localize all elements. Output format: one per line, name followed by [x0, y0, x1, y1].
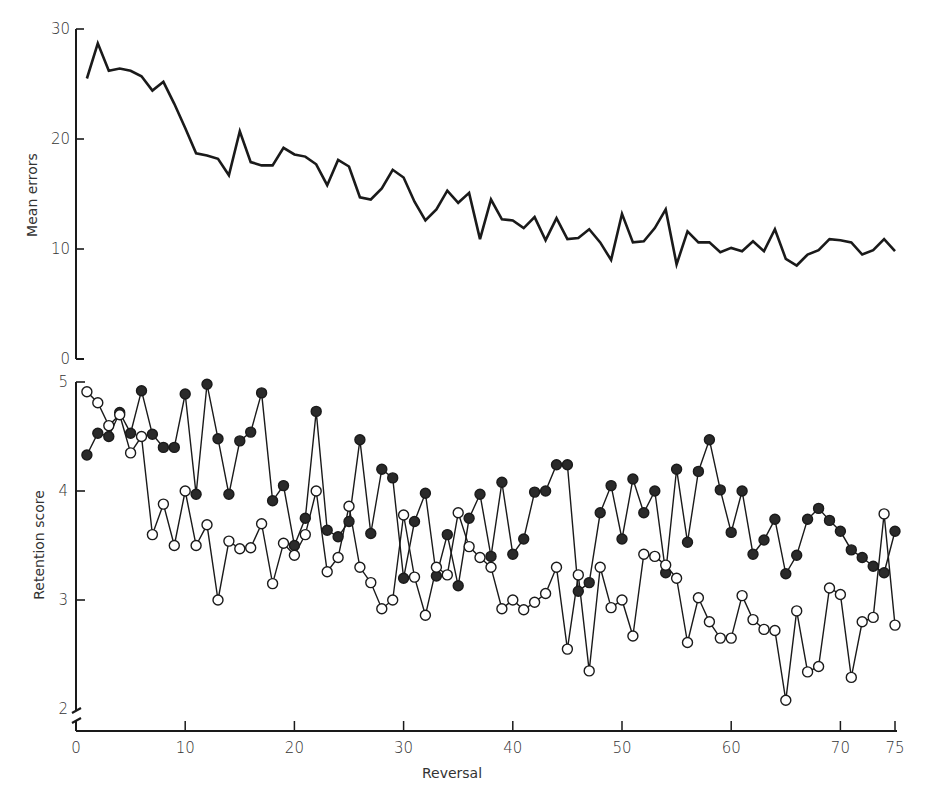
open-circle-marker — [115, 410, 125, 420]
bottom-y-axis-title: Retention score — [31, 490, 47, 600]
filled-circle-marker — [169, 442, 179, 452]
filled-circle-marker — [825, 515, 835, 525]
filled-circle-marker — [137, 386, 147, 396]
filled-circle-marker — [213, 434, 223, 444]
filled-circle-marker — [770, 514, 780, 524]
filled-circle-marker — [475, 489, 485, 499]
open-circle-marker — [213, 595, 223, 605]
open-circle-marker — [104, 421, 114, 431]
filled-circle-marker — [497, 477, 507, 487]
open-circle-marker — [147, 530, 157, 540]
open-circle-marker — [475, 553, 485, 563]
filled-circle-marker — [639, 508, 649, 518]
open-circle-marker — [552, 562, 562, 572]
open-circle-marker — [650, 551, 660, 561]
filled-circle-marker — [388, 473, 398, 483]
filled-circle-marker — [748, 549, 758, 559]
open-circle-marker — [399, 510, 409, 520]
open-circle-marker — [388, 595, 398, 605]
x-tick-label: 70 — [831, 739, 850, 757]
open-circle-marker — [748, 615, 758, 625]
top-y-tick-label: 30 — [51, 20, 70, 38]
open-circle-marker — [868, 612, 878, 622]
open-circle-marker — [82, 387, 92, 397]
x-tick-label: 30 — [394, 739, 413, 757]
open-circle-marker — [759, 624, 769, 634]
filled-circle-marker — [224, 489, 234, 499]
open-circle-marker — [595, 562, 605, 572]
open-circle-marker — [453, 508, 463, 518]
mean-errors-line — [87, 43, 895, 265]
open-circle-marker — [693, 593, 703, 603]
filled-circle-marker — [606, 481, 616, 491]
x-tick-label: 20 — [285, 739, 304, 757]
filled-circle-marker — [355, 435, 365, 445]
open-circle-marker — [235, 544, 245, 554]
open-circle-marker — [606, 603, 616, 613]
filled-circle-marker — [814, 503, 824, 513]
filled-circle-marker — [846, 545, 856, 555]
filled-circle-marker — [508, 549, 518, 559]
filled-circle-marker — [147, 429, 157, 439]
open-circle-marker — [814, 662, 824, 672]
open-circle-marker — [857, 617, 867, 627]
filled-circle-marker — [202, 379, 212, 389]
filled-circle-marker — [420, 488, 430, 498]
filled-circle-marker — [180, 389, 190, 399]
x-tick-label: 50 — [612, 739, 631, 757]
top-y-axis-title: Mean errors — [24, 153, 40, 237]
figure: 0102030 2345 01020304050607075 Mean erro… — [0, 0, 930, 796]
filled-circle-marker — [704, 435, 714, 445]
top-y-tick-label: 10 — [51, 240, 70, 258]
open-circle-marker — [584, 666, 594, 676]
x-tick-label: 75 — [885, 739, 904, 757]
open-circle-marker — [486, 562, 496, 572]
open-circle-marker — [672, 573, 682, 583]
filled-circle-marker — [617, 534, 627, 544]
open-circle-marker — [93, 398, 103, 408]
filled-circle-marker — [672, 464, 682, 474]
bottom-y-tick-label: 4 — [58, 482, 68, 500]
open-circle-marker — [300, 530, 310, 540]
open-circle-marker — [279, 538, 289, 548]
filled-circle-marker — [584, 578, 594, 588]
bottom-y-tick-label: 5 — [58, 373, 68, 391]
x-axis: 01020304050607075 — [71, 721, 904, 757]
x-axis-title: Reversal — [422, 765, 482, 781]
open-circle-marker — [257, 519, 267, 529]
open-circle-marker — [562, 644, 572, 654]
filled-circle-marker — [399, 573, 409, 583]
open-circle-marker — [497, 604, 507, 614]
open-circle-marker — [792, 606, 802, 616]
open-circle-marker — [573, 570, 583, 580]
filled-circle-marker — [333, 532, 343, 542]
open-circle-marker — [835, 590, 845, 600]
open-circle-marker — [628, 631, 638, 641]
bottom-y-tick-label: 3 — [58, 591, 68, 609]
filled-circle-marker — [464, 513, 474, 523]
filled-circle-marker — [191, 489, 201, 499]
open-circle-marker — [169, 541, 179, 551]
filled-circle-marker — [104, 432, 114, 442]
open-circle-marker — [726, 633, 736, 643]
open-circle-marker — [126, 448, 136, 458]
filled-circle-marker — [410, 517, 420, 527]
x-tick-label: 60 — [722, 739, 741, 757]
open-circle-marker — [246, 543, 256, 553]
filled-circle-marker — [868, 561, 878, 571]
open-circle-marker — [377, 604, 387, 614]
open-circle-marker — [268, 579, 278, 589]
filled-circle-marker — [693, 466, 703, 476]
filled-circle-marker — [519, 534, 529, 544]
filled-circle-marker — [300, 513, 310, 523]
filled-circle-marker — [453, 581, 463, 591]
filled-circle-marker — [279, 481, 289, 491]
open-circle-marker — [158, 499, 168, 509]
filled-circle-marker — [289, 541, 299, 551]
open-circle-marker — [617, 595, 627, 605]
filled-circle-marker — [683, 537, 693, 547]
chart-svg: 0102030 2345 01020304050607075 Mean erro… — [0, 0, 930, 796]
filled-circle-marker — [322, 525, 332, 535]
filled-circle-marker — [879, 568, 889, 578]
open-circle-marker — [704, 617, 714, 627]
